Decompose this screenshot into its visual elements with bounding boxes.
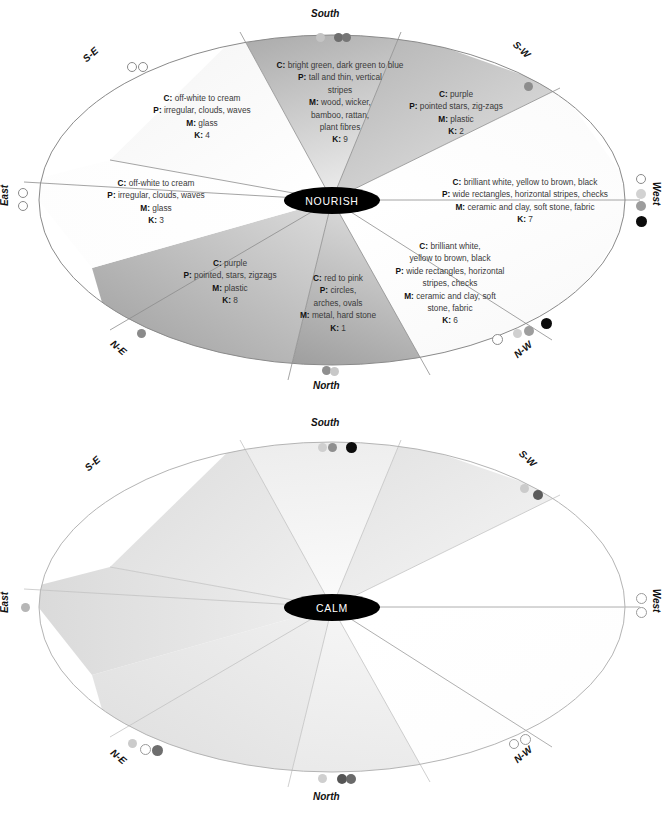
marker-dot <box>492 334 503 345</box>
marker-dot <box>513 329 522 338</box>
marker-dot <box>18 188 28 198</box>
compass-label-east: East <box>0 592 10 613</box>
marker-dot <box>318 443 327 452</box>
marker-dot <box>520 484 529 493</box>
marker-dot <box>140 744 151 755</box>
compass-label-south: South <box>311 8 339 19</box>
marker-dot <box>316 33 325 42</box>
marker-dot <box>524 82 533 91</box>
marker-dot <box>18 201 28 211</box>
compass-label-west: West <box>651 589 662 613</box>
compass-label-west: West <box>651 182 662 206</box>
compass-label-south: South <box>311 417 339 428</box>
marker-dot <box>138 62 148 72</box>
nourish-wheel-stage: NOURISH South S-W West N-W North N-E Eas… <box>0 0 664 400</box>
marker-dot <box>128 739 137 748</box>
marker-dot <box>541 318 552 329</box>
compass-label-north: North <box>313 380 340 391</box>
marker-dot <box>137 329 146 338</box>
marker-dot <box>346 774 356 784</box>
marker-dot <box>346 442 357 453</box>
marker-dot <box>127 62 137 72</box>
compass-label-east: East <box>0 185 10 206</box>
marker-dot <box>342 33 351 42</box>
marker-dot <box>509 739 519 749</box>
diagram-nourish: NOURISH South S-W West N-W North N-E Eas… <box>0 0 664 400</box>
calm-center-label: CALM <box>284 594 380 621</box>
sector-text-k3: C: off-white to creamP: irregular, cloud… <box>70 177 242 227</box>
marker-dot <box>533 490 543 500</box>
marker-dot <box>636 593 647 604</box>
nourish-center-label: NOURISH <box>284 187 380 214</box>
sector-text-k8: C: purpleP: pointed, stars, zigzagsM: pl… <box>155 257 305 307</box>
marker-dot <box>21 603 30 612</box>
marker-dot <box>318 774 327 783</box>
calm-wheel-stage: CALM South S-W West N-W North N-E East S… <box>0 400 664 813</box>
diagram-calm: CALM South S-W West N-W North N-E East S… <box>0 400 664 813</box>
compass-label-north: North <box>313 791 340 802</box>
marker-dot <box>152 745 163 756</box>
sector-text-k7: C: brilliant white, yellow to brown, bla… <box>410 176 640 226</box>
sector-text-k4: C: off-white to creamP: irregular, cloud… <box>122 92 282 142</box>
sector-text-k2: C: purpleP: pointed stars, zig-zagsM: pl… <box>394 88 518 138</box>
marker-dot <box>330 367 339 376</box>
marker-dot <box>636 607 647 618</box>
marker-dot <box>524 326 534 336</box>
marker-dot <box>520 734 531 745</box>
marker-dot <box>328 443 337 452</box>
